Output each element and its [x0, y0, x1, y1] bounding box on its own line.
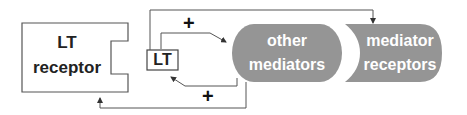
lt-receptor-line1: LT [22, 34, 112, 51]
mediator-receptors-line1: mediator [355, 33, 445, 49]
lt-label: LT [147, 52, 178, 68]
other-mediators-label: other mediators [232, 33, 342, 73]
mediator-receptors-label: mediator receptors [355, 33, 445, 73]
lt-to-other-mediators-arrow [161, 33, 226, 49]
plus-sign-bottom: + [202, 86, 214, 106]
other-mediators-line2: mediators [232, 57, 342, 73]
lt-receptor-line2: receptor [22, 59, 112, 76]
plus-sign-top: + [183, 13, 195, 33]
lt-receptor-label: LT receptor [22, 34, 112, 76]
other-mediators-line1: other [232, 33, 342, 49]
mediator-receptors-line2: receptors [355, 57, 445, 73]
